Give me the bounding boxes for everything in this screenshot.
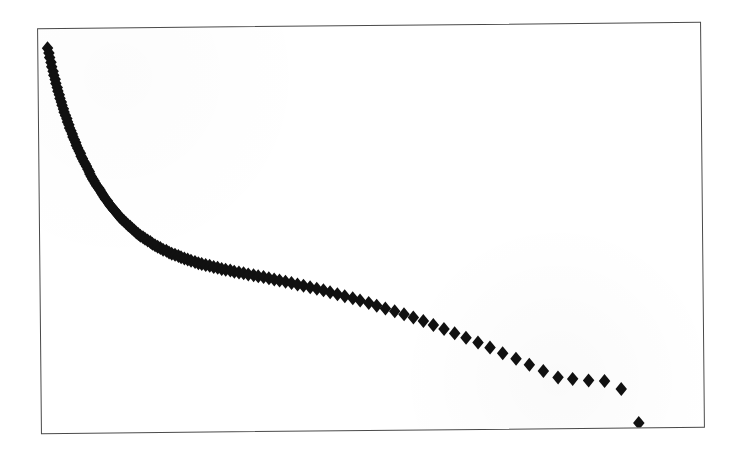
scatter-series [38,23,704,433]
data-point [484,341,496,355]
data-point [389,304,401,318]
scan-skew-wrapper [0,0,739,451]
marker-group [42,35,645,433]
data-point [510,352,522,366]
data-point [615,382,627,396]
data-point [449,326,461,340]
data-point [524,358,536,372]
data-point [538,364,550,378]
data-point [633,416,645,430]
data-point [460,331,472,345]
plot-frame [37,22,705,434]
data-point [398,307,410,321]
plot-area [38,23,704,433]
data-point [408,310,420,324]
data-point [438,322,450,336]
data-point [472,335,484,349]
data-point [599,374,611,388]
data-point [552,370,564,384]
data-point [380,301,392,315]
figure-container [0,0,739,451]
data-point [583,373,595,387]
data-point [567,372,579,386]
data-point [497,346,509,360]
data-point [418,314,430,328]
data-point [428,318,440,332]
